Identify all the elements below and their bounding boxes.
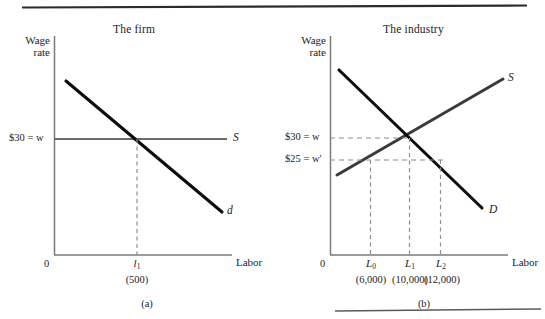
panel-a-wage-label-30: $30 = w — [9, 132, 44, 143]
panel-b-y-axis-label-line2: rate — [288, 47, 326, 59]
panel-a-demand-curve — [66, 81, 222, 212]
panel-a-title: The firm — [113, 23, 155, 35]
panel-a-y-axis-label-line2: rate — [12, 47, 50, 59]
panel-b-label: (b) — [409, 298, 439, 309]
panel-b-y-axis-label: Wage rate — [288, 35, 326, 58]
figure-container: The firm Wage rate $30 = w S d 0 Labor l… — [0, 0, 545, 319]
panel-b-x-tick-L2-value: (12,000) — [412, 274, 472, 285]
panel-b-wage-label-30: $30 = w — [285, 131, 320, 142]
panel-a-y-axis-label: Wage rate — [12, 35, 50, 58]
panel-b-x-tick-L2: L2 — [421, 258, 461, 270]
panel-b-origin-label: 0 — [320, 258, 325, 269]
panel-b-y-axis-label-line1: Wage — [301, 34, 326, 46]
panel-b-wage-label-25: $25 = w′ — [285, 153, 322, 164]
panel-a-supply-curve-label: S — [233, 131, 239, 143]
panel-b-demand-curve — [339, 70, 482, 208]
panel-b-x-tick-L2-subscript: 2 — [442, 262, 446, 271]
panel-b-x-tick-L1-subscript: 1 — [411, 262, 415, 271]
panel-a-x-tick-l1: l1 — [117, 258, 157, 270]
panel-b-x-axis-label: Labor — [512, 257, 538, 269]
figure-graphics — [0, 0, 545, 319]
panel-b-supply-curve-label: S — [508, 71, 514, 83]
panel-a-x-tick-l1-subscript: 1 — [137, 262, 141, 271]
panel-a-x-axis-label: Labor — [236, 257, 262, 269]
panel-b-x-tick-L0-subscript: 0 — [372, 262, 376, 271]
panel-a-x-tick-l1-value: (500) — [112, 274, 162, 285]
panel-b-demand-curve-label: D — [489, 203, 497, 215]
bottom-rule — [335, 309, 541, 311]
panel-a-demand-curve-label: d — [227, 204, 233, 216]
top-rule — [22, 6, 527, 8]
panel-b-title: The industry — [383, 23, 444, 35]
panel-a-y-axis-label-line1: Wage — [25, 34, 50, 46]
panel-a-origin-label: 0 — [44, 258, 49, 269]
panel-b-x-tick-L0: L0 — [351, 258, 391, 270]
panel-a-label: (a) — [132, 298, 162, 309]
